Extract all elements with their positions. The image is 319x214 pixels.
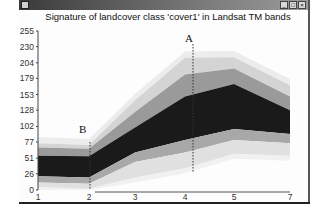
y-tick-label: 0: [29, 185, 34, 195]
y-tick-label: 77: [25, 137, 35, 147]
y-tick-label: 255: [20, 26, 34, 36]
x-tick-label: 5: [232, 192, 237, 202]
y-tick-label: 26: [25, 169, 35, 179]
y-tick-label: 128: [20, 105, 34, 115]
y-tick-label: 230: [20, 42, 34, 52]
y-tick-label: 102: [20, 121, 34, 131]
x-tick-label: 2: [87, 192, 92, 202]
x-tick-label: 1: [36, 192, 41, 202]
y-tick-label: 179: [20, 73, 34, 83]
signature-plot: 0265177102128153179204230255123457AB: [0, 0, 319, 214]
annotation-label-b: B: [79, 123, 86, 135]
y-tick-label: 204: [20, 58, 34, 68]
y-tick-label: 153: [20, 90, 34, 100]
x-tick-label: 4: [183, 192, 188, 202]
y-tick-label: 51: [25, 153, 35, 163]
x-tick-label: 3: [133, 192, 138, 202]
annotation-label-a: A: [185, 32, 193, 44]
x-tick-label: 7: [288, 192, 293, 202]
